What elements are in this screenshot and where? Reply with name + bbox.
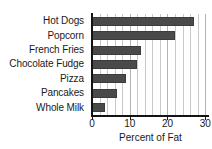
bar (92, 74, 126, 83)
bar (92, 89, 117, 98)
bar-series (92, 14, 209, 115)
y-axis-line (91, 13, 93, 116)
x-tick-label: 30 (200, 119, 211, 129)
x-tick-label: 20 (162, 119, 173, 129)
bar-row (92, 14, 209, 28)
bar-chart: Hot DogsPopcornFrench FriesChocolate Fud… (0, 0, 212, 149)
bar-row (92, 43, 209, 57)
bar-row (92, 86, 209, 100)
category-label: Chocolate Fudge (0, 57, 88, 71)
bar-row (92, 57, 209, 71)
plot-area (92, 14, 209, 115)
bar (92, 46, 141, 55)
category-label: Whole Milk (0, 101, 88, 115)
x-tick-label: 0 (89, 119, 95, 129)
category-label: Pizza (0, 72, 88, 86)
x-axis-line (91, 115, 209, 117)
category-label: Hot Dogs (0, 14, 88, 28)
bar (92, 60, 137, 69)
bar (92, 103, 105, 112)
x-axis-title: Percent of Fat (92, 133, 209, 143)
category-label: Pancakes (0, 86, 88, 100)
category-label: Popcorn (0, 28, 88, 42)
bar (92, 31, 175, 40)
bar-row (92, 101, 209, 115)
bar (92, 17, 194, 26)
bar-row (92, 28, 209, 42)
bar-row (92, 72, 209, 86)
category-axis: Hot DogsPopcornFrench FriesChocolate Fud… (0, 14, 88, 115)
category-label: French Fries (0, 43, 88, 57)
x-tick-label: 10 (124, 119, 135, 129)
